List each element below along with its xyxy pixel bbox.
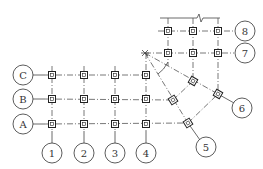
axis-label-5: 5: [203, 142, 209, 153]
axis-label-3: 3: [112, 148, 118, 159]
axis-bubble-4: 4: [136, 143, 156, 163]
column-A3: [112, 121, 119, 128]
structural-columns: [49, 28, 223, 128]
axis-bubble-C: C: [13, 65, 33, 85]
column-7-c: [215, 50, 222, 57]
column-C3: [112, 72, 119, 79]
column-7-b: [190, 50, 197, 57]
column-8-c: [215, 28, 222, 35]
axis-bubble-6: 6: [232, 98, 252, 118]
column-8-b: [190, 28, 197, 35]
column-7-a: [165, 50, 172, 57]
axis-label-4: 4: [143, 148, 149, 159]
axis-bubble-2: 2: [74, 143, 94, 163]
column-B1: [49, 96, 56, 103]
axis-label-8: 8: [242, 26, 248, 37]
axis-label-2: 2: [81, 148, 87, 159]
break-line: [160, 14, 220, 22]
column-B3: [112, 96, 119, 103]
axis-bubble-1: 1: [42, 143, 62, 163]
axis-bubble-8: 8: [235, 21, 255, 41]
column-A2: [81, 121, 88, 128]
axis-label-C: C: [19, 70, 27, 81]
column-A1: [49, 121, 56, 128]
pivot-mark-icon: [141, 50, 149, 56]
axis-bubble-3: 3: [105, 143, 125, 163]
column-8-a: [165, 28, 172, 35]
axis-bubble-7: 7: [235, 43, 255, 63]
axis-bubble-A: A: [13, 114, 33, 134]
column-A4: [143, 121, 150, 128]
column-axis-lines: [52, 53, 146, 144]
row-axis-lines: [33, 75, 188, 124]
grid-diagram: C B A 1 2 3 4 5 6 7 8: [0, 0, 263, 169]
axis-bubble-5: 5: [196, 137, 216, 157]
axis-bubble-B: B: [13, 89, 33, 109]
column-C4: [143, 72, 150, 79]
axis-label-1: 1: [49, 148, 55, 159]
column-B2: [81, 96, 88, 103]
column-B4: [143, 96, 150, 103]
axis-label-7: 7: [242, 48, 248, 59]
column-C1: [49, 72, 56, 79]
axis-label-A: A: [18, 119, 27, 130]
column-C2: [81, 72, 88, 79]
axis-label-B: B: [19, 94, 26, 105]
axis-label-6: 6: [239, 103, 245, 114]
